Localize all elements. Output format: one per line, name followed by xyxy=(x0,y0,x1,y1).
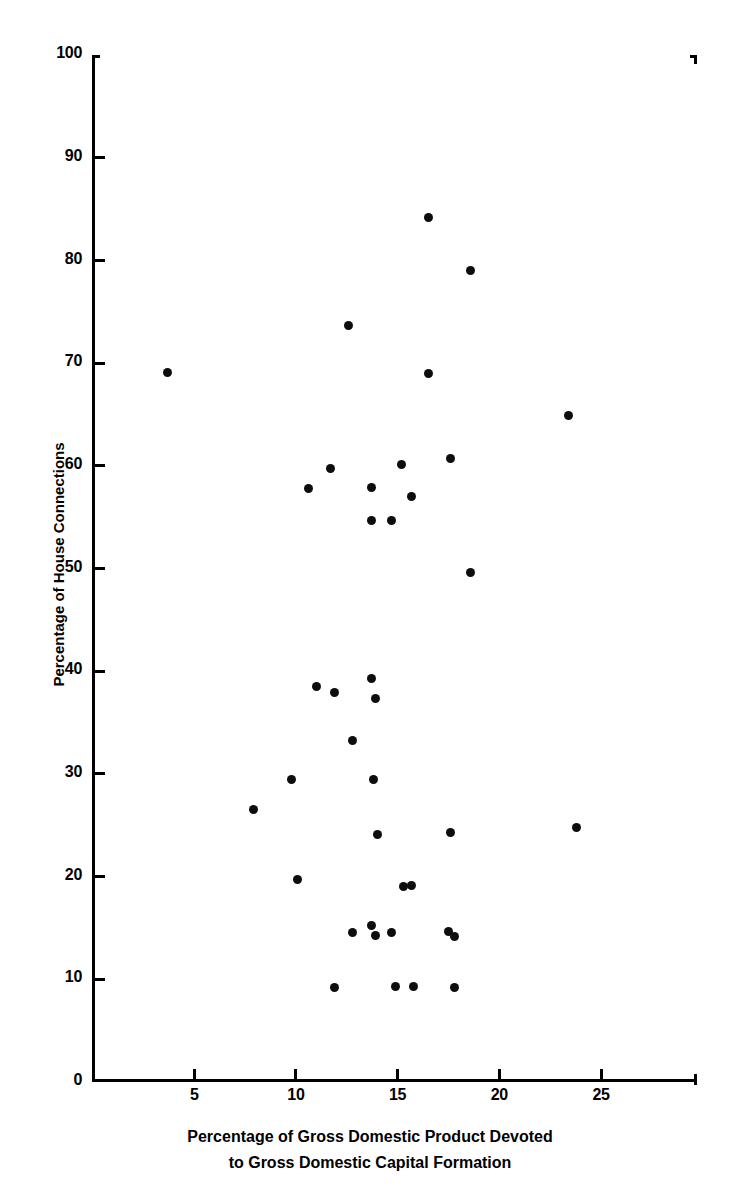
y-axis-tick-label: 20 xyxy=(30,866,82,884)
y-axis-tick-label: 100 xyxy=(30,44,82,62)
data-point xyxy=(371,694,380,703)
x-axis-tick-label: 15 xyxy=(378,1086,418,1104)
data-point xyxy=(348,928,357,937)
y-axis-tick xyxy=(92,156,105,159)
data-point xyxy=(387,516,396,525)
data-point xyxy=(326,464,335,473)
x-axis-tick xyxy=(193,1069,196,1082)
plot-frame-right-mask xyxy=(693,64,699,1074)
y-axis-tick xyxy=(92,670,105,673)
x-axis-tick xyxy=(294,1069,297,1082)
x-axis-tick-label: 20 xyxy=(479,1086,519,1104)
y-axis-tick xyxy=(92,567,105,570)
data-point xyxy=(450,983,459,992)
y-axis-tick-label: 80 xyxy=(30,250,82,268)
data-point xyxy=(572,823,581,832)
y-axis-tick-label: 70 xyxy=(30,352,82,370)
x-axis-title-line-1: Percentage of Gross Domestic Product Dev… xyxy=(60,1124,680,1150)
x-axis-tick-label: 5 xyxy=(174,1086,214,1104)
data-point xyxy=(446,828,455,837)
data-point xyxy=(450,932,459,941)
data-point xyxy=(367,674,376,683)
data-point xyxy=(330,983,339,992)
y-axis-tick xyxy=(92,464,105,467)
x-axis-title: Percentage of Gross Domestic Product Dev… xyxy=(60,1124,680,1176)
y-axis-tick-label: 10 xyxy=(30,968,82,986)
data-point xyxy=(312,682,321,691)
data-point xyxy=(387,928,396,937)
x-axis-tick xyxy=(600,1069,603,1082)
y-axis-tick-label: 0 xyxy=(30,1071,82,1089)
data-point xyxy=(391,982,400,991)
data-point xyxy=(369,775,378,784)
y-axis-tick xyxy=(92,259,105,262)
data-point xyxy=(424,213,433,222)
data-point xyxy=(367,483,376,492)
data-point xyxy=(371,931,380,940)
x-axis-tick xyxy=(396,1069,399,1082)
plot-frame-top-mask xyxy=(100,54,690,59)
y-axis-tick-label: 30 xyxy=(30,763,82,781)
x-axis-tick-label: 10 xyxy=(276,1086,316,1104)
y-axis-title: Percentage of House Connections xyxy=(50,400,67,730)
data-point xyxy=(287,775,296,784)
data-point xyxy=(424,369,433,378)
y-axis-tick-label: 90 xyxy=(30,147,82,165)
y-axis-tick xyxy=(92,772,105,775)
x-axis-tick xyxy=(498,1069,501,1082)
data-point xyxy=(304,484,313,493)
scatter-plot-figure: 0102030405060708090100 510152025 Percent… xyxy=(0,0,733,1202)
y-axis-tick xyxy=(92,978,105,981)
plot-area xyxy=(92,55,697,1082)
y-axis-tick xyxy=(92,362,105,365)
x-axis-title-line-2: to Gross Domestic Capital Formation xyxy=(60,1150,680,1176)
data-point xyxy=(348,736,357,745)
x-axis-tick-label: 25 xyxy=(581,1086,621,1104)
y-axis-tick xyxy=(92,875,105,878)
data-point xyxy=(373,830,382,839)
data-point xyxy=(367,516,376,525)
